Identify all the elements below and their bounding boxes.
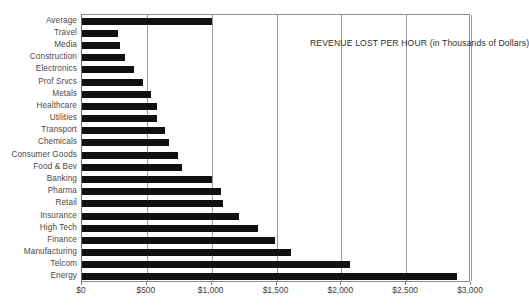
y-axis-label: Metals [0, 89, 77, 98]
y-axis-label: Construction [0, 52, 77, 61]
gridline [471, 15, 472, 281]
y-axis-label: Finance [0, 235, 77, 244]
y-axis-label: Insurance [0, 211, 77, 220]
y-axis-label: Travel [0, 28, 77, 37]
bar [82, 164, 182, 171]
bar [82, 18, 212, 25]
bar [82, 225, 258, 232]
bars-layer [82, 15, 469, 281]
y-axis-label: Pharma [0, 186, 77, 195]
y-axis-label: Telcom [0, 259, 77, 268]
bar [82, 237, 275, 244]
bar [82, 176, 212, 183]
y-axis-label: Banking [0, 174, 77, 183]
x-axis-tick-label: $2,000 [328, 285, 354, 295]
bar [82, 91, 151, 98]
bar [82, 79, 143, 86]
bar [82, 261, 350, 268]
x-axis-tick-label: $3,000 [457, 285, 483, 295]
x-axis-tick-label: $1,500 [263, 285, 289, 295]
y-axis-label: Average [0, 16, 77, 25]
bar [82, 103, 157, 110]
bar [82, 54, 125, 61]
y-axis-label: Consumer Goods [0, 150, 77, 159]
y-axis-label: Utilities [0, 113, 77, 122]
y-axis-label: Electronics [0, 64, 77, 73]
bar [82, 127, 165, 134]
y-axis-label: Prof Srvcs [0, 77, 77, 86]
y-axis-category-labels: AverageTravelMediaConstructionElectronic… [0, 14, 77, 282]
x-axis-tick-labels: $0$500$1,000$1,500$2,000$2,500$3,000 [0, 285, 488, 301]
plot-area: REVENUE LOST PER HOUR (in Thousands of D… [81, 14, 470, 282]
y-axis-label: Transport [0, 125, 77, 134]
y-axis-label: Media [0, 40, 77, 49]
y-axis-label: Healthcare [0, 101, 77, 110]
x-axis-tick-label: $1,000 [198, 285, 224, 295]
bar [82, 152, 178, 159]
y-axis-label: Manufacturing [0, 247, 77, 256]
chart-title: REVENUE LOST PER HOUR (in Thousands of D… [310, 38, 529, 48]
y-axis-label: Energy [0, 271, 77, 280]
y-axis-label: High Tech [0, 223, 77, 232]
y-axis-label: Chemicals [0, 137, 77, 146]
bar [82, 66, 134, 73]
y-axis-label: Food & Bev [0, 162, 77, 171]
bar [82, 30, 118, 37]
bar [82, 213, 239, 220]
bar [82, 200, 223, 207]
y-axis-label: Retail [0, 198, 77, 207]
bar [82, 249, 291, 256]
x-axis-tick-label: $0 [76, 285, 85, 295]
bar [82, 273, 457, 280]
bar [82, 139, 169, 146]
x-axis-tick-label: $500 [137, 285, 156, 295]
bar [82, 42, 120, 49]
bar [82, 188, 221, 195]
x-axis-tick-label: $2,500 [392, 285, 418, 295]
bar [82, 115, 157, 122]
